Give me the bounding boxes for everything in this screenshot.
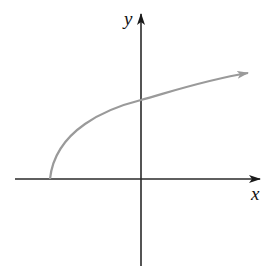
y-axis-label: y [122,8,133,29]
x-axis-label: x [250,183,260,204]
sqrt-curve [50,73,248,179]
graph: y x [0,0,271,277]
